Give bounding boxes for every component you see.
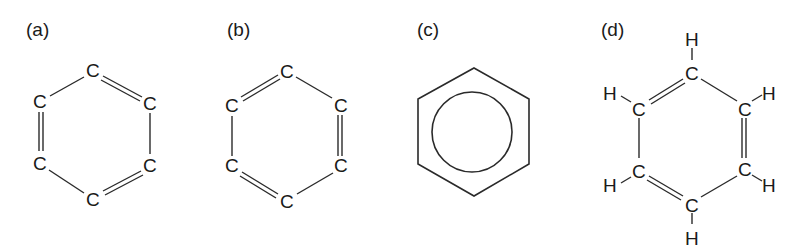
carbon-atom: C (280, 61, 294, 82)
carbon-atom: C (685, 195, 699, 216)
bond-double-line1 (103, 76, 142, 97)
hydrogen-atom: H (603, 175, 617, 196)
bond-ch (621, 177, 631, 183)
carbon-atom: C (334, 155, 348, 176)
hydrogen-atom: H (685, 228, 699, 249)
hydrogen-atom: H (603, 83, 617, 104)
carbon-atom: C (33, 91, 47, 112)
bond-double-line2 (243, 79, 280, 101)
bond-single (296, 77, 332, 98)
bond-double-line1 (241, 75, 278, 97)
hydrogen-atom: H (762, 175, 776, 196)
carbon-atom: C (225, 155, 239, 176)
carbon-atom: C (33, 153, 47, 174)
panel-c: (c) (417, 19, 529, 196)
bond-single (49, 170, 84, 193)
carbon-atom: C (143, 155, 157, 176)
hydrogen-atom: H (762, 83, 776, 104)
carbon-atom: C (738, 159, 752, 180)
bond-double-line1 (242, 172, 278, 194)
carbon-atom: C (685, 63, 699, 84)
bond-ch (752, 175, 762, 181)
bond-double-line2 (101, 80, 140, 101)
bond-single (701, 79, 737, 101)
panel-b-label: (b) (227, 19, 250, 40)
panel-a-label: (a) (26, 19, 49, 40)
bond-ch (752, 95, 762, 101)
carbon-atom: C (86, 60, 100, 81)
panel-c-label: (c) (417, 19, 439, 40)
bond-double-line2 (647, 180, 681, 200)
bond-double-line2 (240, 176, 276, 198)
carbon-atom: C (334, 95, 348, 116)
carbon-atom: C (225, 95, 239, 116)
carbon-atom: C (143, 93, 157, 114)
panel-d: (d) C C C C C C H H H H H H (601, 19, 776, 249)
bond-single (701, 176, 737, 197)
bond-double-line1 (103, 171, 141, 191)
benzene-structures-figure: (a) C C C C C C (b) C C C C C (0, 0, 804, 251)
bond-ch (621, 96, 631, 102)
carbon-atom: C (632, 99, 646, 120)
carbon-atom: C (86, 189, 100, 210)
bond-single (297, 173, 333, 194)
panel-a: (a) C C C C C C (26, 19, 157, 210)
bond-double-line2 (105, 175, 143, 195)
carbon-atom: C (632, 161, 646, 182)
carbon-atom: C (738, 99, 752, 120)
bond-single (50, 77, 84, 96)
carbon-atom: C (280, 191, 294, 212)
bond-double-line1 (649, 79, 683, 100)
bond-double-line2 (651, 83, 685, 104)
panel-d-label: (d) (601, 19, 624, 40)
panel-b: (b) C C C C C C (225, 19, 348, 212)
aromatic-circle (432, 92, 512, 172)
hydrogen-atom: H (685, 29, 699, 50)
bond-double-line1 (649, 176, 683, 196)
